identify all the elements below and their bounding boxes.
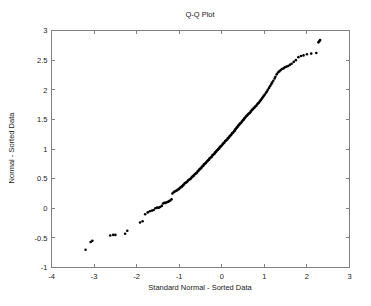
data-point — [292, 61, 295, 64]
qq-plot-figure: Q-Q Plot -4-3-2-10123 -1-0.500.511.522.5… — [0, 0, 371, 306]
axis-frame — [52, 31, 350, 268]
data-point — [109, 234, 112, 237]
y-axis-ticks: -1-0.500.511.522.53 — [35, 26, 350, 272]
x-tick-label: 0 — [220, 272, 224, 281]
data-point — [126, 229, 129, 232]
data-point — [84, 248, 87, 251]
y-tick-label: 1 — [43, 145, 47, 154]
chart-canvas: Q-Q Plot -4-3-2-10123 -1-0.500.511.522.5… — [0, 0, 371, 306]
data-point — [290, 62, 293, 65]
data-point — [139, 221, 142, 224]
data-point — [302, 54, 305, 57]
data-point — [124, 232, 127, 235]
x-tick-label: -3 — [91, 272, 98, 281]
data-point — [295, 59, 298, 62]
x-tick-label: 3 — [347, 272, 351, 281]
data-point — [114, 234, 117, 237]
x-tick-label: -2 — [133, 272, 140, 281]
x-tick-label: -4 — [48, 272, 55, 281]
y-tick-label: 2 — [43, 86, 47, 95]
x-axis-label: Standard Normal - Sorted Data — [148, 283, 252, 292]
scatter-series — [84, 39, 321, 251]
y-tick-label: 3 — [43, 26, 47, 35]
page-title: Q-Q Plot — [185, 10, 215, 19]
data-point — [297, 56, 300, 59]
data-point — [300, 55, 303, 58]
data-point — [144, 213, 147, 216]
data-point — [319, 39, 322, 42]
x-axis-ticks: -4-3-2-10123 — [48, 31, 351, 281]
y-tick-label: 0 — [43, 204, 47, 213]
y-tick-label: 1.5 — [37, 115, 47, 124]
data-point — [272, 80, 275, 83]
y-tick-label: 0.5 — [37, 174, 47, 183]
y-axis-label: Normal - Sorted Data — [7, 112, 16, 184]
data-point — [306, 53, 309, 56]
x-tick-label: -1 — [176, 272, 183, 281]
y-tick-label: -1 — [41, 263, 48, 272]
x-tick-label: 1 — [262, 272, 266, 281]
plot-border — [52, 31, 350, 268]
data-point — [141, 220, 144, 223]
x-tick-label: 2 — [305, 272, 309, 281]
chart-title-group: Q-Q Plot — [185, 10, 215, 19]
y-tick-label: 2.5 — [37, 56, 47, 65]
y-tick-label: -0.5 — [35, 234, 48, 243]
data-point — [310, 52, 313, 55]
data-point — [91, 240, 94, 243]
data-point — [315, 52, 318, 55]
data-point — [170, 198, 173, 201]
data-point — [274, 75, 277, 78]
data-point — [160, 205, 163, 208]
